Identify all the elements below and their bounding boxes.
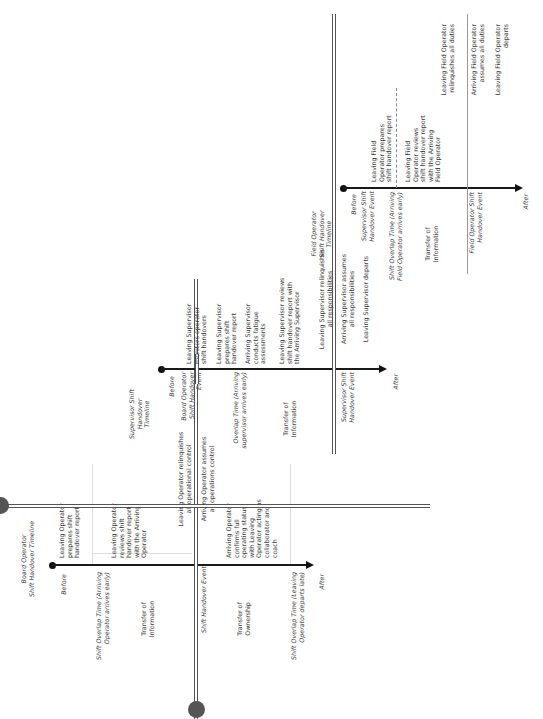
board-timeline-axis [52,564,308,566]
board-event-dot-top [0,497,9,514]
field-step-2: Leaving Field Operator reviews shift han… [404,87,442,182]
board-step-2: Leaving Operator reviews shift handover … [110,468,148,558]
field-timeline-arrow-icon [515,184,523,192]
board-before-label: Before [60,574,68,604]
board-timeline-arrow-icon [306,561,314,569]
board-transfer-ownership-label: Transfer of Ownership [236,589,251,649]
supervisor-step-6: Arriving Supervisor assumes all responsi… [340,224,355,374]
board-transfer-info-label: Transfer of Information [140,589,155,649]
field-step-4: Arriving Field Operator assumes all duti… [470,24,485,144]
field-step-5: Leaving Field Operator departs [494,24,509,144]
supervisor-step-4: Leaving Supervisor reviews shift handove… [278,264,301,364]
field-step-3: Leaving Field Operator relinquishes all … [440,24,455,144]
board-event-endpoint [188,701,205,718]
field-overlap-label: Shift Overlap Time (Arriving Field Opera… [388,192,403,304]
field-after-label: After [522,194,530,234]
field-timeline-axis [343,187,517,189]
supervisor-board-event-label: Board Operator Shift Handover Event [180,372,203,442]
field-timeline-title: Field Operator Shift Handover Timeline [310,194,333,274]
board-overlap-start-line [92,464,93,564]
field-event-label: Field Operator Shift Handover Event [468,192,483,274]
field-before-label: Before [350,194,358,234]
supervisor-step-1: Leaving Supervisor monitors operator shi… [185,274,208,364]
supervisor-timeline-title: Supervisor Shift Handover Timeline [128,374,151,454]
supervisor-step-3: Arriving Supervisor conducts fatigue ass… [244,274,267,364]
board-overlap-end-line [290,464,291,564]
board-step-5: Arriving Operator confirms full operatin… [225,468,278,558]
board-step-1: Leaving Operator prepares shift handover… [58,468,81,558]
board-timeline-title: Board Operator Shift Handover Timeline [20,514,35,604]
field-event-line [467,14,468,274]
supervisor-step-2: Leaving Supervisor prepares shift handov… [215,274,238,364]
field-step-1: Leaving Field Operator prepares shift ha… [370,87,393,182]
board-overlap-end: Shift Overlap Time (Leaving Operator dep… [290,572,305,684]
supervisor-before-label: Before [168,376,176,414]
field-overlap-start-line [396,88,397,188]
board-event-label: Shift Handover Event [200,566,208,642]
board-event-bar [0,504,430,508]
supervisor-timeline-arrow-icon [379,365,387,373]
supervisor-overlap-label: Overlap Time (Arriving supervisor arrive… [232,372,247,454]
supervisor-transfer-info-label: Transfer of Information [282,379,297,459]
supervisor-event-label: Supervisor Shift Handover Event [340,372,355,434]
board-after-label: After [318,574,326,614]
board-overlap-start: Shift Overlap Time (Arriving Operator ar… [95,572,110,684]
field-supervisor-event-label: Supervisor Shift Handover Event [360,191,375,259]
field-transfer-info-label: Transfer of Information [424,214,439,274]
supervisor-after-label: After [392,374,400,414]
